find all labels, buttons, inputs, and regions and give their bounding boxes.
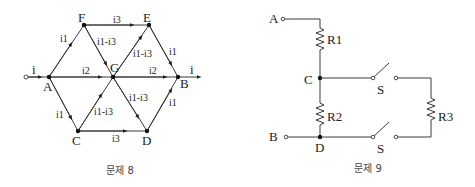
current-CD: i3 [112,133,120,144]
diagram-canvas: A F E G B C D i i i1 i3 i1-i3 i1-i3 i1 i… [0,0,475,187]
switch-bottom-contact [394,135,398,139]
current-FG: i1-i3 [97,36,116,47]
current-GE: i1-i3 [133,48,152,59]
current-GD: i1-i3 [129,92,148,103]
label-switch-top: S [377,82,384,97]
label-F: F [78,10,85,25]
switch-bottom-blade[interactable] [374,122,389,136]
label-D: D [315,140,324,155]
switch-top-blade[interactable] [374,63,389,77]
input-terminal [24,75,28,79]
label-C: C [72,133,81,148]
label-A: A [43,79,53,94]
node-G [111,75,115,79]
label-R3: R3 [438,109,453,124]
current-AG: i2 [82,65,90,76]
current-FE: i3 [113,14,121,25]
figure-problem-9: A R1 C S R3 R2 B D S 문제 9 [269,11,453,174]
label-E: E [143,10,151,25]
figure-problem-8: A F E G B C D i i i1 i3 i1-i3 i1-i3 i1 i… [24,10,199,176]
label-B: B [269,129,278,144]
caption-problem-9: 문제 9 [354,163,382,174]
caption-problem-8: 문제 8 [106,165,134,176]
label-C: C [304,72,313,87]
resistor-R1 [316,28,324,50]
label-A: A [269,11,279,26]
current-AC: i1 [56,109,64,120]
label-output-current: i [190,62,194,77]
resistor-R2 [316,103,324,125]
label-switch-bottom: S [377,141,384,156]
current-CG: i1-i3 [94,106,113,117]
label-input-current: i [32,62,36,77]
current-GB: i2 [149,65,157,76]
label-D: D [142,133,151,148]
current-DB: i1 [169,97,177,108]
current-AF: i1 [60,33,68,44]
label-B: B [180,76,189,91]
terminal-A [281,17,285,21]
label-R1: R1 [327,32,342,47]
resistor-R3 [427,98,435,120]
wire-A-R1 [285,19,320,28]
current-EB: i1 [169,46,177,57]
node-D [318,135,322,139]
label-R2: R2 [327,109,342,124]
terminal-B [284,135,288,139]
label-G: G [110,60,119,75]
switch-top-contact [394,76,398,80]
